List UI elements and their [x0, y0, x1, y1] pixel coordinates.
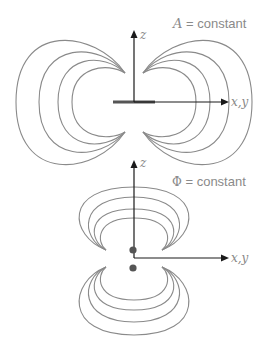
bottom-lower-contours	[79, 267, 189, 335]
bottom-panel: z x,y Φ = constant	[79, 156, 248, 335]
top-left-contours	[16, 40, 125, 164]
charge-dot-lower	[129, 264, 136, 271]
arrow-right-icon	[221, 99, 229, 106]
title-symbol-phi: Φ	[172, 175, 182, 189]
top-panel: z x,y A = constant	[16, 16, 252, 165]
arrow-right-icon	[221, 255, 229, 262]
title-symbol-a: A	[172, 16, 182, 31]
bottom-xy-axis	[134, 255, 229, 262]
contour-line	[79, 267, 189, 335]
arrow-up-icon	[131, 30, 138, 38]
charge-dot-upper	[129, 246, 136, 253]
top-z-axis	[131, 30, 138, 102]
bottom-xy-label: x,y	[231, 251, 249, 265]
top-z-label: z	[139, 28, 147, 42]
title-rest: = constant	[182, 174, 246, 189]
bottom-z-label: z	[139, 156, 147, 170]
top-title: A = constant	[172, 16, 247, 31]
arrow-up-icon	[131, 160, 138, 168]
top-xy-axis	[134, 99, 229, 106]
figure: z x,y A = constant	[0, 0, 265, 353]
contour-line	[94, 267, 173, 310]
title-rest: = constant	[182, 16, 246, 31]
contour-line	[88, 267, 179, 322]
contour-line	[100, 267, 167, 300]
contour-line	[39, 52, 125, 152]
top-xy-label: x,y	[231, 95, 249, 109]
bottom-title: Φ = constant	[172, 174, 246, 189]
